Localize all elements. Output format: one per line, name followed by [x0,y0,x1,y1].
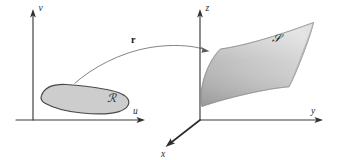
mapping-arrowhead [200,46,209,52]
axis-label-y: y [310,106,316,116]
region-R-shape [41,84,129,113]
surface-S-shape [201,23,314,107]
mapping-arrow-r: r [75,34,210,84]
region-label-R: ℛ [107,92,117,104]
axis-label-z: z [205,3,210,13]
domain-panel-uv-plane: ℛ v u [16,3,145,123]
mapping-arc-path [75,45,204,83]
range-panel-xyz-space: 𝒮 z y x [160,3,323,159]
axis-y [200,117,323,123]
axis-label-u: u [133,106,138,116]
axis-v [30,9,36,120]
axis-u [16,117,145,123]
axis-x [166,120,201,147]
axis-label-x: x [160,149,166,159]
mapping-label-r: r [131,34,136,45]
parametrization-diagram: ℛ v u r [0,0,337,160]
figure-root: ℛ v u r [0,0,337,160]
axis-label-v: v [39,3,44,13]
